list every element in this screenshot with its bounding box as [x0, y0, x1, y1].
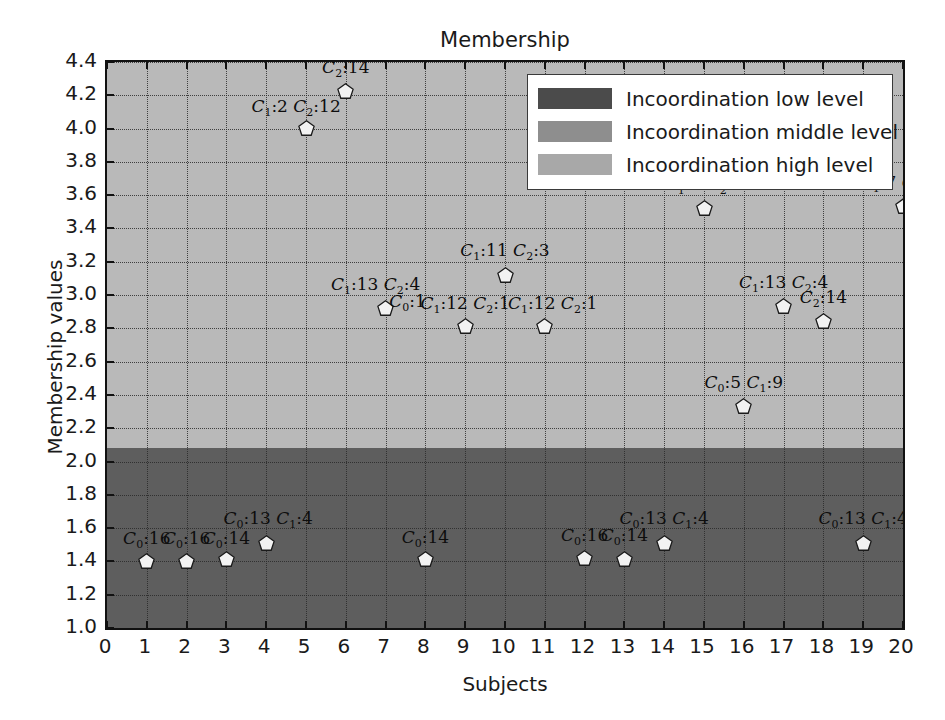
y-tick [107, 461, 114, 463]
y-tick [107, 527, 114, 529]
x-tick-label: 3 [218, 634, 231, 658]
y-tick-label: 1.4 [37, 547, 97, 571]
data-point[interactable] [656, 535, 673, 552]
legend-item-0[interactable]: Incoordination low level [538, 82, 882, 115]
legend-swatch [538, 121, 612, 142]
x-tick-label: 13 [610, 634, 635, 658]
data-point[interactable] [457, 318, 474, 335]
data-point[interactable] [855, 535, 872, 552]
x-tick [424, 62, 426, 69]
data-point[interactable] [417, 551, 434, 568]
point-annotation: C2:14 [322, 60, 369, 80]
data-point[interactable] [815, 313, 832, 330]
x-tick [902, 62, 904, 69]
x-tick [265, 62, 267, 69]
data-point[interactable] [298, 120, 315, 137]
point-annotation: C1:2 C2:12 [251, 95, 340, 118]
data-point[interactable] [178, 553, 195, 570]
x-tick [305, 621, 307, 628]
legend-item-1[interactable]: Incoordination middle level [538, 115, 882, 148]
y-tick [107, 594, 114, 596]
x-tick-label: 0 [99, 634, 112, 658]
point-annotation: C1:11 C2:3 [460, 240, 549, 263]
x-tick [783, 621, 785, 628]
y-tick [107, 94, 114, 96]
y-tick [107, 61, 114, 63]
x-tick [703, 621, 705, 628]
x-tick [146, 621, 148, 628]
x-tick [225, 621, 227, 628]
point-annotation: C1:12 C2:1 [421, 292, 510, 315]
point-annotation: C0:14 [402, 526, 449, 549]
x-tick [146, 62, 148, 69]
legend[interactable]: Incoordination low levelIncoordination m… [527, 74, 893, 190]
point-annotation: C0:13 C1:4 [620, 508, 709, 531]
x-tick [743, 621, 745, 628]
x-tick [862, 62, 864, 69]
x-tick [822, 621, 824, 628]
data-point[interactable] [696, 200, 713, 217]
legend-swatch [538, 88, 612, 109]
x-tick-label: 6 [337, 634, 350, 658]
legend-label: Incoordination middle level [626, 120, 898, 144]
x-tick-label: 15 [689, 634, 714, 658]
x-tick [544, 62, 546, 69]
legend-label: Incoordination low level [626, 87, 864, 111]
x-tick [663, 62, 665, 69]
x-tick [464, 621, 466, 628]
y-tick-label: 4.2 [37, 81, 97, 105]
data-point[interactable] [258, 535, 275, 552]
y-tick-label: 4.0 [37, 115, 97, 139]
gridline-x [306, 62, 307, 628]
x-tick-label: 20 [888, 634, 913, 658]
point-annotation: C1:12 C2:1 [508, 292, 597, 315]
data-point[interactable] [895, 198, 906, 215]
legend-swatch [538, 154, 612, 175]
x-tick-label: 16 [729, 634, 754, 658]
data-point[interactable] [576, 550, 593, 567]
data-point[interactable] [775, 298, 792, 315]
data-point[interactable] [497, 267, 514, 284]
x-tick [424, 621, 426, 628]
point-annotation: C0:5 C1:9 [705, 372, 784, 395]
x-tick [584, 62, 586, 69]
point-annotation: C2:14 [800, 287, 847, 310]
x-tick-label: 2 [178, 634, 191, 658]
x-tick [385, 62, 387, 69]
y-tick [107, 261, 114, 263]
x-tick-label: 18 [809, 634, 834, 658]
x-tick [265, 621, 267, 628]
x-tick [504, 62, 506, 69]
x-tick-label: 19 [848, 634, 873, 658]
x-tick [464, 62, 466, 69]
data-point[interactable] [735, 398, 752, 415]
x-tick-label: 10 [490, 634, 515, 658]
y-tick-label: 4.4 [37, 48, 97, 72]
x-tick [623, 621, 625, 628]
x-tick [663, 621, 665, 628]
y-tick [107, 227, 114, 229]
x-tick-label: 12 [570, 634, 595, 658]
y-tick-label: 1.2 [37, 581, 97, 605]
x-tick [783, 62, 785, 69]
data-point[interactable] [536, 318, 553, 335]
x-tick [225, 62, 227, 69]
y-tick-label: 3.8 [37, 148, 97, 172]
y-tick [107, 294, 114, 296]
gridline-x [386, 62, 387, 628]
gridline-y [107, 628, 903, 629]
legend-item-2[interactable]: Incoordination high level [538, 148, 882, 181]
data-point[interactable] [138, 553, 155, 570]
x-tick [544, 621, 546, 628]
data-point[interactable] [218, 551, 235, 568]
x-tick [504, 621, 506, 628]
y-tick-label: 1.6 [37, 514, 97, 538]
x-tick-label: 9 [457, 634, 470, 658]
x-tick [862, 621, 864, 628]
point-annotation: C0:13 C1:4 [819, 508, 905, 531]
x-tick [902, 621, 904, 628]
data-point[interactable] [616, 551, 633, 568]
x-tick-label: 5 [298, 634, 311, 658]
x-tick-label: 7 [377, 634, 390, 658]
x-tick [703, 62, 705, 69]
